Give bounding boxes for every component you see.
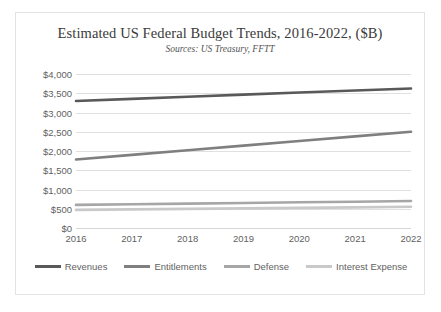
x-axis-tick-label: 2016 xyxy=(65,233,86,244)
series-line xyxy=(76,88,411,101)
x-axis-tick-label: 2017 xyxy=(121,233,142,244)
legend-item[interactable]: Revenues xyxy=(35,261,108,272)
y-axis-tick-label: $1,000 xyxy=(20,184,72,195)
y-axis-tick-label: $2,000 xyxy=(20,146,72,157)
chart-card: Estimated US Federal Budget Trends, 2016… xyxy=(15,12,425,295)
x-axis-tick-label: 2020 xyxy=(289,233,310,244)
x-axis-tick-label: 2021 xyxy=(345,233,366,244)
x-axis-tick-label: 2022 xyxy=(400,233,421,244)
x-axis-tick-label: 2018 xyxy=(177,233,198,244)
legend-swatch-icon xyxy=(35,265,61,268)
legend-label: Entitlements xyxy=(154,261,206,272)
y-axis-tick-label: $3,500 xyxy=(20,88,72,99)
legend-swatch-icon xyxy=(124,265,150,268)
legend-swatch-icon xyxy=(306,265,332,268)
plot-wrapper: $4,000$3,500$3,000$2,500$2,000$1,500$1,0… xyxy=(16,13,426,296)
legend-label: Revenues xyxy=(65,261,108,272)
legend-swatch-icon xyxy=(224,265,250,268)
legend-item[interactable]: Interest Expense xyxy=(306,261,407,272)
series-line xyxy=(76,201,411,205)
y-axis-tick-label: $1,500 xyxy=(20,165,72,176)
series-lines xyxy=(76,74,411,228)
y-axis-tick-label: $4,000 xyxy=(20,69,72,80)
y-axis-tick-label: $3,000 xyxy=(20,107,72,118)
y-axis-tick-label: $500 xyxy=(20,203,72,214)
x-axis-line xyxy=(76,228,411,229)
y-axis-tick-label: $0 xyxy=(20,223,72,234)
x-axis-tick-label: 2019 xyxy=(233,233,254,244)
legend-label: Defense xyxy=(254,261,289,272)
x-axis-labels: 2016201720182019202020212022 xyxy=(76,233,411,247)
series-line xyxy=(76,132,411,160)
chart-legend: RevenuesEntitlementsDefenseInterest Expe… xyxy=(16,261,426,272)
y-axis-labels: $4,000$3,500$3,000$2,500$2,000$1,500$1,0… xyxy=(16,74,72,228)
legend-item[interactable]: Defense xyxy=(224,261,289,272)
legend-label: Interest Expense xyxy=(336,261,407,272)
legend-item[interactable]: Entitlements xyxy=(124,261,206,272)
series-line xyxy=(76,207,411,210)
y-axis-tick-label: $2,500 xyxy=(20,126,72,137)
